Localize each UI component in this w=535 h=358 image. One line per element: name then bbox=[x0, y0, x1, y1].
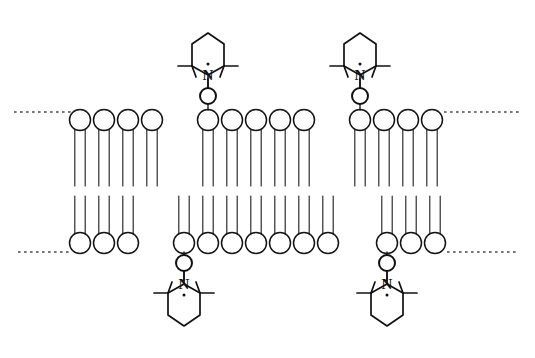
lipid-molecule bbox=[377, 196, 398, 254]
lipid-head-group bbox=[142, 110, 163, 131]
lipid-molecule bbox=[94, 110, 115, 187]
lipid-head-group bbox=[94, 110, 115, 131]
lower-leaflet-lipids bbox=[70, 196, 446, 254]
radical-dot bbox=[386, 294, 389, 297]
lipid-molecule bbox=[350, 110, 371, 187]
lipid-molecule bbox=[294, 110, 315, 187]
lipid-head-group bbox=[118, 110, 139, 131]
lipid-head-group bbox=[401, 233, 422, 254]
lipid-molecule bbox=[198, 196, 219, 254]
figure-canvas: NNNN bbox=[0, 0, 535, 358]
lipid-head-group bbox=[398, 110, 419, 131]
oxygen-atom-label bbox=[379, 255, 395, 271]
oxygen-atom-label bbox=[200, 88, 216, 104]
lipid-molecule bbox=[222, 110, 243, 187]
lipid-molecule bbox=[246, 110, 267, 187]
surface-dotted-lines bbox=[14, 112, 521, 252]
lipid-head-group bbox=[422, 110, 443, 131]
lipid-head-group bbox=[350, 110, 371, 131]
nitrogen-atom-label: N bbox=[179, 276, 190, 292]
lipid-head-group bbox=[318, 233, 339, 254]
radical-dot bbox=[359, 63, 362, 66]
lipid-head-group bbox=[270, 110, 291, 131]
lipid-molecule bbox=[70, 196, 91, 254]
lipid-molecule bbox=[118, 196, 139, 254]
lipid-molecule bbox=[198, 110, 219, 187]
lipid-head-group bbox=[70, 110, 91, 131]
lipid-molecule bbox=[425, 196, 446, 254]
radical-dot bbox=[207, 63, 210, 66]
lipid-molecule bbox=[142, 110, 163, 187]
lipid-head-group bbox=[198, 110, 219, 131]
lipid-molecule bbox=[70, 110, 91, 187]
lipid-molecule bbox=[401, 196, 422, 254]
lipid-molecule bbox=[118, 110, 139, 187]
lipid-head-group bbox=[246, 110, 267, 131]
lipid-head-group bbox=[425, 233, 446, 254]
lipid-molecule bbox=[422, 110, 443, 187]
oxygen-atom-label bbox=[176, 255, 192, 271]
lipid-molecule bbox=[270, 110, 291, 187]
lipid-head-group bbox=[94, 233, 115, 254]
lipid-head-group bbox=[294, 110, 315, 131]
lipid-molecule bbox=[398, 110, 419, 187]
lipid-head-group bbox=[294, 233, 315, 254]
lipid-molecule bbox=[294, 196, 315, 254]
lipid-head-group bbox=[174, 233, 195, 254]
spin-label-top-right: N bbox=[330, 33, 390, 110]
upper-leaflet-lipids bbox=[70, 110, 443, 187]
nitrogen-atom-label: N bbox=[382, 276, 393, 292]
spin-label-top-left: N bbox=[178, 33, 238, 110]
lipid-molecule bbox=[246, 196, 267, 254]
lipid-head-group bbox=[198, 233, 219, 254]
nitrogen-atom-label: N bbox=[355, 67, 366, 83]
lipid-molecule bbox=[94, 196, 115, 254]
lipid-molecule bbox=[174, 196, 195, 254]
lipid-head-group bbox=[70, 233, 91, 254]
lipid-head-group bbox=[377, 233, 398, 254]
lipid-head-group bbox=[222, 110, 243, 131]
lipid-head-group bbox=[270, 233, 291, 254]
nitrogen-atom-label: N bbox=[203, 67, 214, 83]
spin-label-bottom-right: N bbox=[357, 252, 417, 326]
bilayer-diagram: NNNN bbox=[0, 0, 535, 358]
spin-label-bottom-left: N bbox=[154, 252, 214, 326]
lipid-molecule bbox=[222, 196, 243, 254]
lipid-molecule bbox=[270, 196, 291, 254]
radical-dot bbox=[183, 294, 186, 297]
lipid-head-group bbox=[246, 233, 267, 254]
lipid-molecule bbox=[374, 110, 395, 187]
lipid-head-group bbox=[374, 110, 395, 131]
lipid-head-group bbox=[222, 233, 243, 254]
oxygen-atom-label bbox=[352, 88, 368, 104]
lipid-head-group bbox=[118, 233, 139, 254]
lipid-molecule bbox=[318, 196, 339, 254]
